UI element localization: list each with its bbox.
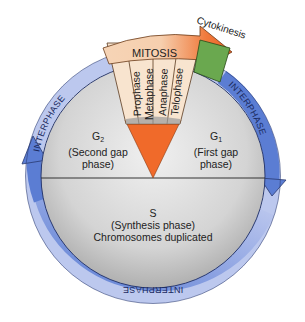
- g2-line2: phase): [58, 158, 138, 170]
- cell-cycle-diagram: Prophase Metaphase Anaphase Telophase MI…: [0, 0, 305, 322]
- s-symbol: S: [83, 207, 223, 219]
- g2-subscript: 2: [100, 136, 104, 143]
- g2-line1: (Second gap: [58, 146, 138, 158]
- g1-symbol: G: [210, 130, 218, 142]
- g1-line2: phase): [180, 158, 252, 170]
- g1-line1: (First gap: [180, 146, 252, 158]
- s-phase-label: S (Synthesis phase) Chromosomes duplicat…: [83, 207, 223, 243]
- anaphase-label: Anaphase: [156, 68, 170, 116]
- mitosis-label: MITOSIS: [132, 47, 177, 59]
- metaphase-label: Metaphase: [143, 68, 155, 120]
- s-line1: (Synthesis phase): [83, 219, 223, 231]
- interphase-label-bottom: INTERPHASE: [123, 285, 184, 295]
- s-line2: Chromosomes duplicated: [83, 231, 223, 243]
- g2-phase-label: G2 (Second gap phase): [58, 130, 138, 170]
- interphase-arrow-left-shaft: [34, 158, 41, 200]
- g1-subscript: 1: [218, 136, 222, 143]
- g2-symbol: G: [92, 130, 100, 142]
- prophase-label: Prophase: [129, 71, 143, 116]
- g1-phase-label: G1 (First gap phase): [180, 130, 252, 170]
